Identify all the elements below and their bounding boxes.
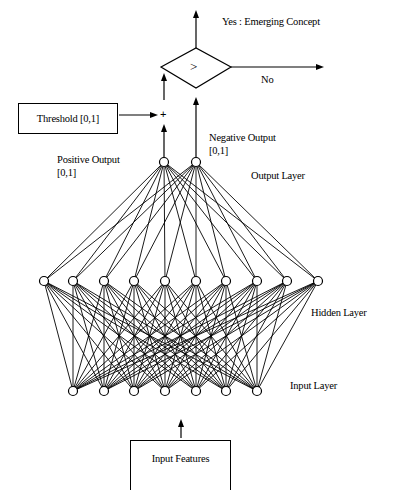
input-features-label: Input Features [152, 453, 210, 464]
yes-label: Yes : Emerging Concept [222, 15, 320, 28]
hidden-node [253, 277, 262, 286]
input-layer-label: Input Layer [290, 379, 337, 392]
neural-network-diagram [0, 0, 398, 490]
hidden-layer-label: Hidden Layer [311, 306, 367, 319]
input-features-box: Input Features [130, 440, 231, 490]
hidden-node [130, 277, 139, 286]
input-node [192, 387, 201, 396]
hidden-node [69, 277, 78, 286]
threshold-label: Threshold [0,1] [37, 113, 99, 124]
output-node [192, 158, 201, 167]
hidden-node [314, 277, 323, 286]
hidden-node [192, 277, 201, 286]
hidden-node [283, 277, 292, 286]
input-node [69, 387, 78, 396]
input-node [130, 387, 139, 396]
network-connections [44, 162, 318, 391]
hidden-node [100, 277, 109, 286]
input-node [100, 387, 109, 396]
no-label: No [261, 73, 273, 86]
positive-output-range: [0,1] [57, 166, 76, 179]
output-node [160, 158, 169, 167]
output-layer-label: Output Layer [251, 169, 305, 182]
hidden-node [161, 277, 170, 286]
hidden-node [222, 277, 231, 286]
sum-operator: + [160, 108, 166, 120]
positive-output-label: Positive Output [57, 153, 120, 166]
threshold-box: Threshold [0,1] [18, 103, 118, 134]
hidden-node [40, 277, 49, 286]
negative-output-range: [0,1] [209, 144, 228, 157]
negative-output-label: Negative Output [209, 131, 276, 144]
input-node [222, 387, 231, 396]
decision-symbol: > [190, 59, 197, 75]
input-node [253, 387, 262, 396]
input-node [161, 387, 170, 396]
